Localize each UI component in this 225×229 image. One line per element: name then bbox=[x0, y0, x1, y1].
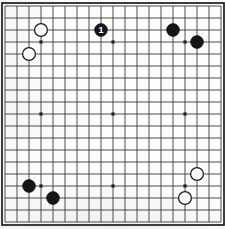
star-point bbox=[39, 184, 42, 187]
stone-body bbox=[179, 192, 192, 205]
stone-black[interactable] bbox=[191, 36, 204, 49]
star-point bbox=[183, 112, 186, 115]
star-point bbox=[183, 40, 186, 43]
star-point bbox=[183, 184, 186, 187]
star-point bbox=[111, 40, 114, 43]
stone-body bbox=[167, 24, 180, 37]
stone-black[interactable]: 1 bbox=[95, 24, 108, 37]
star-point bbox=[39, 40, 42, 43]
stone-black[interactable] bbox=[23, 180, 36, 193]
stone-move-number: 1 bbox=[98, 25, 103, 35]
stone-white[interactable] bbox=[35, 24, 48, 37]
stone-body bbox=[23, 180, 36, 193]
stone-black[interactable] bbox=[47, 192, 60, 205]
stone-white[interactable] bbox=[179, 192, 192, 205]
stone-body bbox=[47, 192, 60, 205]
stone-black[interactable] bbox=[167, 24, 180, 37]
star-point bbox=[39, 112, 42, 115]
stone-body bbox=[23, 48, 36, 61]
star-point bbox=[111, 184, 114, 187]
stone-white[interactable] bbox=[23, 48, 36, 61]
star-point bbox=[111, 112, 114, 115]
stone-white[interactable] bbox=[191, 168, 204, 181]
go-board-diagram: 1 bbox=[0, 0, 225, 229]
go-board-canvas: 1 bbox=[0, 0, 225, 229]
stone-body bbox=[191, 168, 204, 181]
stone-body bbox=[35, 24, 48, 37]
stone-body bbox=[191, 36, 204, 49]
